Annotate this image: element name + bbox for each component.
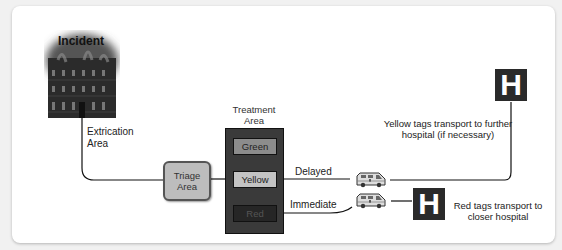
hospital-glyph: H: [500, 70, 522, 100]
near-hospital-caption-line2: closer hospital: [450, 211, 546, 222]
extrication-label-line1: Extrication: [87, 126, 134, 138]
extrication-label: Extrication Area: [87, 126, 134, 150]
far-hospital-caption: Yellow tags transport to further hospita…: [383, 118, 513, 140]
ambulance-icon: [355, 193, 387, 209]
red-tag: Red: [233, 205, 277, 222]
triage-label-line2: Area: [174, 181, 201, 192]
far-hospital-caption-line2: hospital (if necessary): [383, 129, 513, 140]
near-hospital-icon: H: [413, 188, 445, 220]
immediate-label: Immediate: [290, 199, 337, 211]
far-hospital-caption-line1: Yellow tags transport to further: [383, 118, 513, 129]
triage-label-line1: Triage: [174, 170, 201, 181]
near-hospital-caption-line1: Red tags transport to: [450, 200, 546, 211]
near-hospital-caption: Red tags transport to closer hospital: [450, 200, 546, 222]
delayed-label: Delayed: [295, 166, 332, 178]
incident-label: Incident: [58, 34, 104, 48]
treatment-area-label: Treatment Area: [226, 104, 282, 126]
hospital-glyph: H: [418, 189, 440, 219]
triage-area-box: Triage Area: [163, 161, 211, 201]
ambulance-icon: [355, 172, 387, 188]
far-hospital-icon: H: [495, 69, 527, 101]
treatment-label-line2: Area: [226, 115, 282, 126]
treatment-area-box: Green Yellow Red: [225, 128, 284, 234]
yellow-tag: Yellow: [233, 171, 277, 188]
treatment-label-line1: Treatment: [226, 104, 282, 115]
extrication-label-line2: Area: [87, 138, 134, 150]
green-tag: Green: [233, 138, 277, 155]
